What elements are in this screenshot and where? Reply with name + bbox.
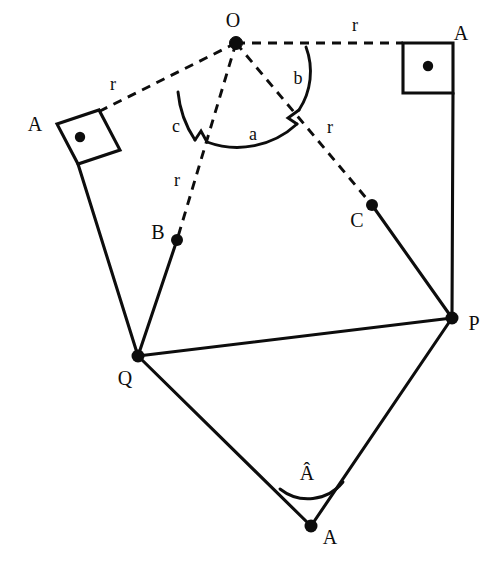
square-right [403,43,453,93]
radius-label-left: r [110,74,116,94]
edge-A-bottom-to-P [311,318,452,526]
angle-label-a: a [249,124,257,144]
edge-B-to-Q [138,240,177,356]
point-label-A-left: A [28,113,43,135]
angle-arcs-group [178,47,310,147]
edge-Q-to-P [138,318,452,356]
square-left [57,110,120,164]
radius-label-right: r [327,117,333,137]
edge-square-right-to-P [452,93,453,318]
vertex-dot-O [230,37,243,50]
edge-C-to-P [372,205,452,318]
vertex-dot-P [446,312,459,325]
vertex-dot-A-bottom [305,520,318,533]
point-label-A-bottom: A [323,526,338,548]
geometry-canvas: O B C P Q A A A r r r r a b c Â [0,0,503,576]
edge-square-left-to-Q [78,164,138,356]
radius-label-top: r [352,15,358,35]
point-label-B: B [151,221,164,243]
diagram-root: O B C P Q A A A r r r r a b c Â [0,0,503,576]
arc-c-stagger [195,131,207,142]
polygon-edges-group [78,93,453,526]
vertex-dot-C [366,199,378,211]
square-left-outline [57,110,120,164]
square-left-center-dot [75,132,85,142]
point-label-A-right: A [454,22,469,44]
point-label-P: P [468,312,479,334]
angle-labels-group: a b c Â [172,68,315,483]
vertex-dot-B [171,234,183,246]
angle-label-b: b [294,68,303,88]
point-label-O: O [226,9,240,31]
point-label-C: C [350,209,363,231]
edge-Q-to-A-bottom [138,356,311,526]
arc-A-hat [280,482,343,499]
vertex-dot-Q [132,350,145,363]
radius-label-lower-left: r [174,170,180,190]
arc-c [178,92,195,140]
square-right-center-dot [423,61,433,71]
angle-label-A-hat: Â [300,462,315,484]
point-label-Q: Q [118,367,133,389]
angle-label-c: c [172,116,180,136]
